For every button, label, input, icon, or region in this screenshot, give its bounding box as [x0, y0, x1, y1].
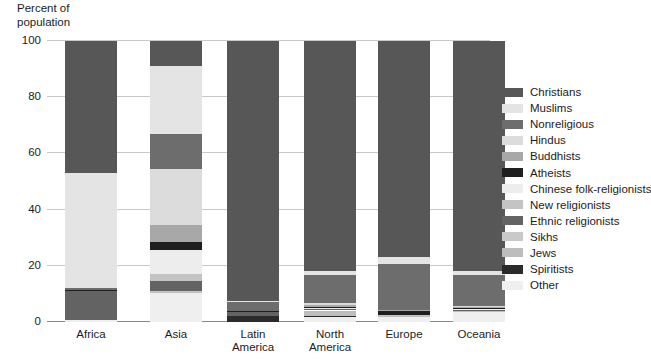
bar-stack[interactable]: Latin America [227, 41, 279, 322]
bar-segment [304, 275, 356, 303]
bar-segment [150, 169, 202, 225]
x-axis-label: Latin America [227, 328, 279, 354]
bar-stack[interactable]: Asia [150, 41, 202, 322]
bar-segment [65, 41, 117, 173]
bar-segment [453, 312, 505, 322]
bar-segment [150, 225, 202, 242]
x-axis-label: Africa [65, 328, 117, 341]
legend-label: Nonreligious [530, 118, 594, 130]
legend-item[interactable]: Christians [502, 84, 651, 100]
legend-label: Hindus [530, 134, 566, 146]
bar-segment [65, 291, 117, 321]
x-axis-label: North America [304, 328, 356, 354]
chart-legend: ChristiansMuslimsNonreligiousHindusBuddh… [502, 84, 651, 293]
bar-segment [378, 257, 430, 264]
legend-item[interactable]: Muslims [502, 100, 651, 116]
bar-segment [453, 271, 505, 275]
bar-stack[interactable]: Africa [65, 41, 117, 322]
legend-swatch [502, 184, 523, 193]
legend-label: Chinese folk-religionists [530, 183, 651, 195]
bar-segment [150, 134, 202, 169]
legend-swatch [502, 120, 523, 129]
bar-segment [65, 288, 117, 289]
legend-label: Other [530, 279, 559, 291]
bar-segment [227, 41, 279, 301]
legend-label: Muslims [530, 102, 572, 114]
legend-item[interactable]: Nonreligious [502, 116, 651, 132]
bar-stack[interactable]: North America [304, 41, 356, 322]
legend-swatch [502, 136, 523, 145]
legend-item[interactable]: Chinese folk-religionists [502, 181, 651, 197]
legend-swatch [502, 216, 523, 225]
y-axis-title: Percent of population [17, 2, 70, 29]
bar-segment [65, 320, 117, 322]
y-tick-label-40: 40 [28, 203, 41, 215]
legend-label: Sikhs [530, 231, 558, 243]
bar-segment [378, 311, 430, 315]
bar-stack[interactable]: Oceania [453, 41, 505, 322]
legend-item[interactable]: Ethnic religionists [502, 213, 651, 229]
legend-swatch [502, 232, 523, 241]
y-tick-label-100: 100 [22, 34, 41, 46]
y-tick-label-20: 20 [28, 259, 41, 271]
legend-swatch [502, 265, 523, 274]
bar-segment [304, 271, 356, 275]
bar-segment [453, 307, 505, 308]
bar-segment [65, 173, 117, 288]
bar-segment [227, 312, 279, 315]
bar-segment [150, 242, 202, 250]
legend-label: Spiritists [530, 263, 573, 275]
legend-item[interactable]: Buddhists [502, 148, 651, 164]
legend-item[interactable]: Other [502, 277, 651, 293]
legend-item[interactable]: Atheists [502, 164, 651, 180]
bar-segment [304, 303, 356, 304]
legend-item[interactable]: Sikhs [502, 229, 651, 245]
legend-item[interactable]: Spiritists [502, 261, 651, 277]
legend-swatch [502, 248, 523, 257]
bar-segment [378, 317, 430, 322]
legend-label: Christians [530, 86, 581, 98]
legend-swatch [502, 281, 523, 290]
legend-label: Jews [530, 247, 556, 259]
bar-segment [378, 41, 430, 257]
bar-segment [378, 264, 430, 310]
legend-swatch [502, 104, 523, 113]
legend-item[interactable]: Hindus [502, 132, 651, 148]
bar-segment [227, 302, 279, 311]
legend-label: New religionists [530, 199, 611, 211]
x-axis-label: Asia [150, 328, 202, 341]
y-tick-label-80: 80 [28, 90, 41, 102]
legend-swatch [502, 200, 523, 209]
bar-segment [304, 307, 356, 308]
bar-segment [304, 317, 356, 322]
bar-segment [304, 311, 356, 317]
legend-item[interactable]: New religionists [502, 197, 651, 213]
y-tick-label-0: 0 [35, 315, 41, 327]
bar-segment [150, 274, 202, 281]
legend-label: Atheists [530, 167, 571, 179]
bar-segment [150, 293, 202, 322]
plot-area: 020406080100AfricaAsiaLatin AmericaNorth… [47, 41, 490, 322]
bar-segment [150, 41, 202, 66]
x-axis-label: Europe [378, 328, 430, 341]
bar-segment [227, 316, 279, 321]
bar-segment [453, 306, 505, 307]
legend-swatch [502, 152, 523, 161]
legend-item[interactable]: Jews [502, 245, 651, 261]
bar-stack[interactable]: Europe [378, 41, 430, 322]
bar-segment [150, 291, 202, 292]
bar-segment [150, 250, 202, 274]
bar-segment [453, 41, 505, 271]
bar-segment [150, 281, 202, 290]
bar-segment [150, 66, 202, 133]
y-tick-label-60: 60 [28, 146, 41, 158]
legend-label: Ethnic religionists [530, 215, 619, 227]
bar-segment [304, 305, 356, 307]
bar-segment [304, 41, 356, 271]
legend-label: Buddhists [530, 150, 581, 162]
legend-swatch [502, 88, 523, 97]
x-axis-label: Oceania [453, 328, 505, 341]
legend-swatch [502, 168, 523, 177]
bar-segment [453, 275, 505, 306]
